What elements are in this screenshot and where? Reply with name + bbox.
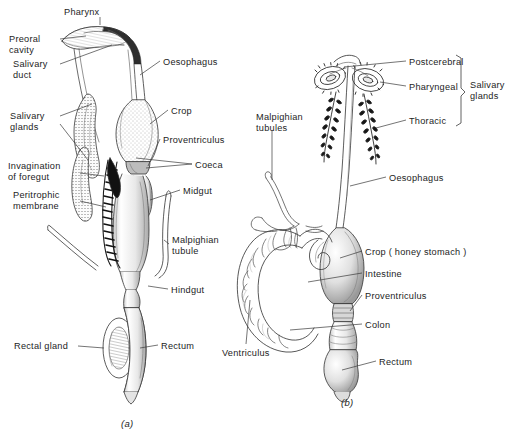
label-rectal-gland: Rectal gland — [14, 341, 68, 352]
label-midgut: Midgut — [183, 186, 212, 197]
label-rectum: Rectum — [161, 341, 194, 352]
label-peritrophic-membrane: Peritrophic membrane — [13, 190, 60, 211]
label-hindgut: Hindgut — [171, 285, 204, 296]
label-preoral-cavity: Preoral cavity — [9, 34, 40, 55]
label-malpighian-tubule: Malpighian tubule — [172, 235, 219, 256]
label-colon: Colon — [365, 320, 390, 331]
label-salivary-duct: Salivary duct — [13, 59, 48, 80]
label-pharynx: Pharynx — [64, 7, 99, 18]
label-postcerebral: Postcerebral — [409, 57, 464, 68]
label-ventriculus: Ventriculus — [222, 348, 270, 359]
label-proventriculus: Proventriculus — [365, 291, 427, 302]
panel-caption: (a) — [121, 418, 134, 429]
label-thoracic: Thoracic — [409, 116, 446, 127]
label-invagination-of-foregut: Invagination of foregut — [8, 161, 61, 182]
label-proventriculus: Proventriculus — [163, 135, 225, 146]
label-crop-honey-stomach: Crop ( honey stomach ) — [365, 247, 467, 258]
label-oesophagus: Oesophagus — [163, 57, 218, 68]
label-pharyngeal: Pharyngeal — [409, 82, 458, 93]
label-salivary-glands: Salivary glands — [10, 111, 45, 132]
label-malpighian-tubules: Malpighian tubules — [256, 112, 303, 133]
group-label-salivary-glands: Salivary glands — [470, 80, 505, 101]
label-intestine: Intestine — [365, 269, 402, 280]
label-crop: Crop — [171, 106, 192, 117]
label-oesophagus: Oesophagus — [389, 173, 444, 184]
label-coeca: Coeca — [195, 160, 223, 171]
label-rectum: Rectum — [379, 357, 412, 368]
panel-caption: (b) — [341, 397, 354, 408]
